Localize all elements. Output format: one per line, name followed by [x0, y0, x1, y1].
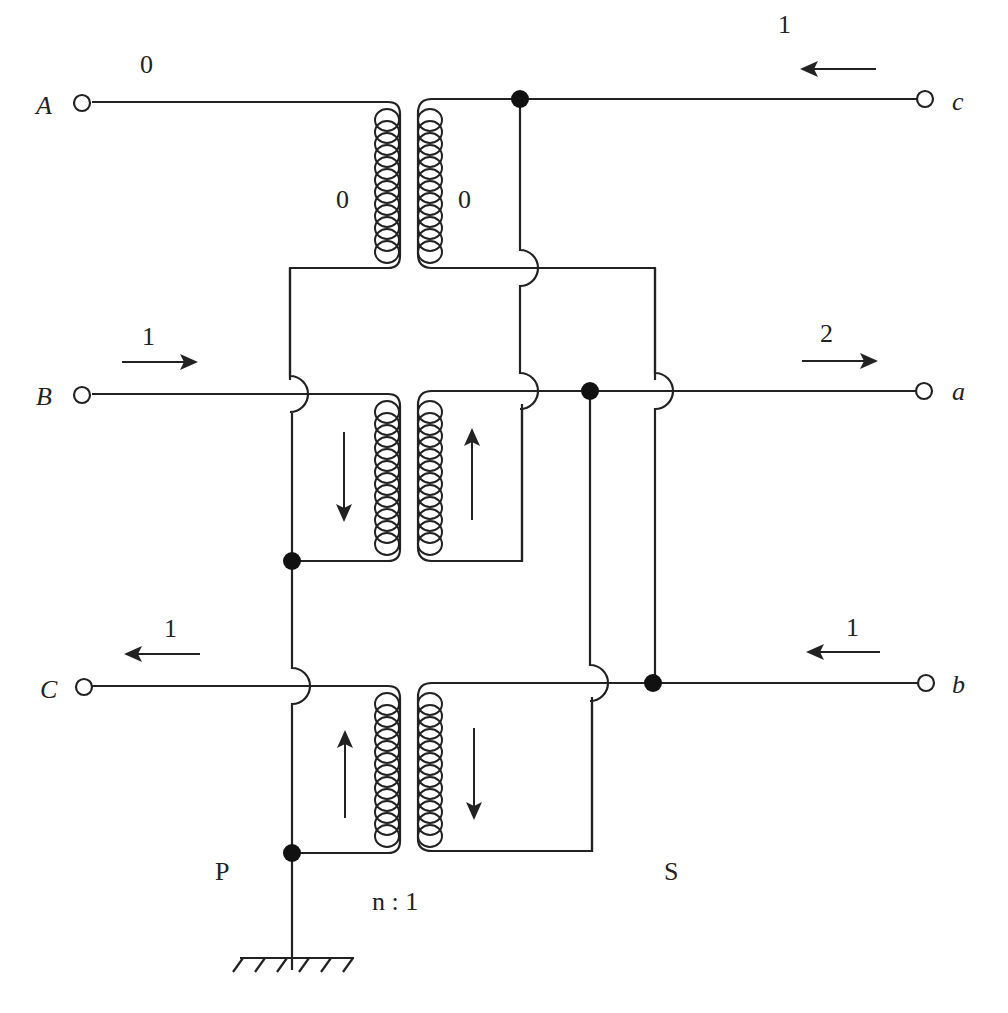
current-label-C: 1	[164, 614, 177, 643]
current-label-B: 1	[142, 322, 155, 351]
transformer-bottom	[92, 683, 918, 853]
junction-dot	[644, 674, 662, 692]
primary-neutral-bus	[290, 268, 310, 970]
arrow-right-icon	[122, 354, 198, 370]
arrow-down-icon	[466, 728, 482, 820]
terminal-B	[74, 387, 90, 403]
current-label-a: 2	[820, 319, 833, 348]
terminal-A	[74, 95, 90, 111]
transformer-top	[92, 99, 918, 380]
turns-ratio-label: n : 1	[372, 887, 418, 916]
arrow-left-icon	[124, 646, 200, 662]
arrow-right-icon	[802, 353, 878, 369]
terminal-label-A: A	[34, 91, 52, 120]
arrow-left-icon	[806, 644, 880, 660]
terminal-b	[918, 675, 934, 691]
arrow-left-icon	[800, 61, 876, 77]
primary-side-label: P	[215, 857, 229, 886]
transformer-circuit-diagram: A B C c a b 0 1 1 1 2 1 0 0	[0, 0, 1008, 1013]
transformer-middle	[92, 391, 918, 561]
arrow-down-icon	[336, 432, 352, 522]
current-label-A: 0	[140, 50, 153, 79]
terminal-label-B: B	[36, 382, 52, 411]
arrow-up-icon	[464, 428, 480, 520]
winding-current-top-secondary: 0	[458, 185, 471, 214]
ground-icon	[233, 958, 354, 972]
terminal-label-C: C	[40, 675, 58, 704]
terminal-c	[917, 91, 933, 107]
current-label-c: 1	[778, 10, 791, 39]
terminal-C	[76, 679, 92, 695]
junction-dot	[581, 382, 599, 400]
terminal-a	[916, 383, 932, 399]
arrow-up-icon	[337, 730, 353, 818]
current-label-b: 1	[846, 613, 859, 642]
terminal-label-c: c	[952, 87, 964, 116]
secondary-link-b	[655, 268, 673, 683]
junction-dot	[283, 552, 301, 570]
winding-current-top-primary: 0	[336, 185, 349, 214]
secondary-side-label: S	[664, 857, 678, 886]
secondary-link-a	[590, 391, 608, 851]
junction-dot	[283, 844, 301, 862]
terminal-label-b: b	[952, 670, 965, 699]
terminal-label-a: a	[952, 377, 965, 406]
junction-dot	[511, 90, 529, 108]
secondary-link-c	[520, 99, 538, 561]
